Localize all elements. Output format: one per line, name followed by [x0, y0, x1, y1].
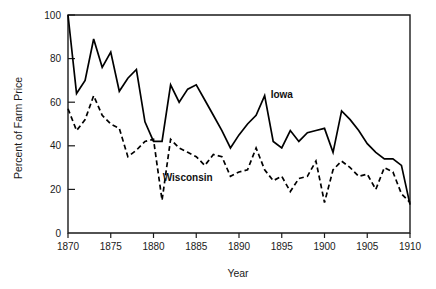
- x-tick-label-1910: 1910: [399, 241, 422, 252]
- y-tick-label-80: 80: [50, 53, 62, 64]
- series-inline-labels: IowaWisconsin: [163, 89, 294, 183]
- y-tick-label-0: 0: [55, 228, 61, 239]
- y-tick-label-20: 20: [50, 184, 62, 195]
- y-tick-label-40: 40: [50, 140, 62, 151]
- plot-frame: [68, 15, 410, 233]
- plot-area-border: [68, 15, 410, 233]
- y-tick-label-60: 60: [50, 97, 62, 108]
- x-axis-ticks: [68, 233, 410, 238]
- series-line-iowa: [68, 15, 410, 205]
- x-tick-label-1905: 1905: [356, 241, 379, 252]
- y-axis-title: Percent of Farm Price: [12, 77, 24, 179]
- x-tick-label-1890: 1890: [228, 241, 251, 252]
- series-line-wisconsin: [68, 96, 410, 203]
- x-tick-label-1885: 1885: [185, 241, 208, 252]
- x-tick-label-1875: 1875: [100, 241, 123, 252]
- x-tick-label-1880: 1880: [142, 241, 165, 252]
- y-tick-label-100: 100: [44, 10, 61, 21]
- y-axis-tick-labels: 020406080100: [44, 10, 61, 239]
- x-tick-label-1900: 1900: [313, 241, 336, 252]
- series-label-iowa: Iowa: [271, 89, 294, 100]
- line-chart-figure: 187018751880188518901895190019051910 020…: [0, 0, 436, 289]
- x-tick-label-1870: 1870: [57, 241, 80, 252]
- x-axis-title: Year: [227, 267, 249, 279]
- chart-screenshot: 187018751880188518901895190019051910 020…: [0, 0, 436, 289]
- x-axis-tick-labels: 187018751880188518901895190019051910: [57, 241, 422, 252]
- series-label-wisconsin: Wisconsin: [163, 172, 213, 183]
- x-tick-label-1895: 1895: [271, 241, 294, 252]
- data-series-layer: [68, 15, 410, 205]
- chart-canvas: 187018751880188518901895190019051910 020…: [0, 0, 436, 289]
